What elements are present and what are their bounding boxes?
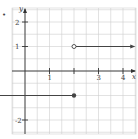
svg-text:3: 3 xyxy=(97,74,101,82)
step-function-graph: 134-4-3-21234 • y x xyxy=(0,0,138,139)
svg-text:3: 3 xyxy=(15,0,19,2)
problem-marker: • xyxy=(2,11,6,19)
y-axis-label: y xyxy=(18,5,24,13)
svg-text:2: 2 xyxy=(15,19,19,27)
svg-text:1: 1 xyxy=(48,74,52,82)
x-axis-label: x xyxy=(132,73,136,81)
svg-text:1: 1 xyxy=(15,43,19,51)
svg-text:4: 4 xyxy=(121,74,126,82)
svg-text:-2: -2 xyxy=(15,117,22,125)
ticks: 134-4-3-21234 xyxy=(15,0,126,139)
